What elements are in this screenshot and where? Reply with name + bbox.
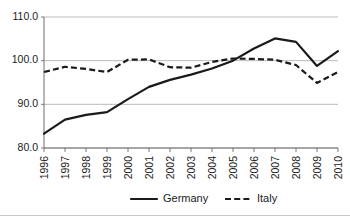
y-axis-tick-label: 110.0 — [13, 10, 39, 22]
x-axis-labels-group: 1996199719981999200020012002200320042005… — [38, 156, 344, 180]
x-axis-tick-label: 2005 — [227, 156, 239, 180]
gridlines-group — [41, 17, 338, 148]
x-axis-tick-label: 2009 — [311, 156, 323, 180]
bottom-divider — [0, 215, 350, 216]
x-axis-tick-label: 2002 — [164, 156, 176, 180]
y-axis-tick-label: 100.0 — [12, 53, 38, 65]
x-axis-tick-label: 1999 — [101, 156, 113, 180]
legend-label-italy: Italy — [257, 192, 278, 204]
line-chart: 110.0100.090.080.0 199619971998199920002… — [0, 0, 350, 216]
x-axis-tick-label: 2004 — [206, 156, 218, 180]
x-axis-tick-label: 2001 — [143, 156, 155, 180]
legend-label-germany: Germany — [163, 192, 209, 204]
x-axis-tickmarks-group — [44, 148, 338, 152]
x-axis-tick-label: 1998 — [80, 156, 92, 180]
y-axis-tick-label: 80.0 — [18, 141, 39, 153]
x-axis-tick-label: 2000 — [122, 156, 134, 180]
series-line-italy — [44, 58, 338, 82]
y-axis-tick-label: 90.0 — [18, 97, 39, 109]
chart-legend: GermanyItaly — [131, 192, 278, 204]
series-line-germany — [44, 38, 338, 133]
y-axis-labels-group: 110.0100.090.080.0 — [12, 10, 38, 153]
x-axis-tick-label: 2003 — [185, 156, 197, 180]
x-axis-tick-label: 1996 — [38, 156, 50, 180]
chart-canvas: 110.0100.090.080.0 199619971998199920002… — [0, 0, 350, 216]
x-axis-tick-label: 2006 — [248, 156, 260, 180]
x-axis-tick-label: 2008 — [290, 156, 302, 180]
x-axis-tick-label: 2007 — [269, 156, 281, 180]
x-axis-tick-label: 1997 — [59, 156, 71, 180]
x-axis-tick-label: 2010 — [332, 156, 344, 180]
